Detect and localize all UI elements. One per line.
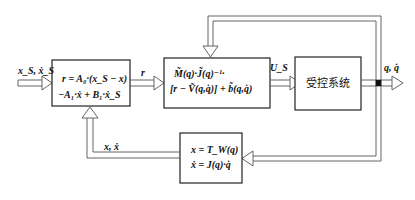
plant-label: 受控系统 bbox=[306, 76, 350, 90]
dynamics-line2: [r − Ṽ(q,q̇)] + b̃(q,q̇) bbox=[170, 82, 252, 95]
output-label: q, q̇ bbox=[384, 62, 399, 73]
input-label: x_S, ẋ_S bbox=[17, 65, 55, 76]
kinematics-line2: ẋ = J(q)·q̇ bbox=[190, 159, 231, 171]
input-arrow bbox=[18, 76, 52, 90]
controller-line2: −A₁·ẋ + B₁·ẋ_S bbox=[58, 89, 121, 100]
output-arrow bbox=[361, 76, 403, 90]
us-label: U_S bbox=[270, 62, 288, 73]
controller-line1: r = A₀·(x_S − x) bbox=[62, 73, 127, 85]
junction-node bbox=[376, 80, 382, 86]
feedback-label: x, ẋ bbox=[103, 141, 119, 152]
block-diagram: x_S, ẋ_S r = A₀·(x_S − x) −A₁·ẋ + B₁·ẋ_S… bbox=[0, 0, 415, 200]
r-arrow bbox=[130, 76, 164, 90]
kinematics-block bbox=[180, 133, 242, 183]
dynamics-line1: M̃(q)·J̃(q)⁻¹· bbox=[173, 67, 225, 80]
x-feedback-path bbox=[82, 107, 180, 158]
r-label: r bbox=[141, 67, 145, 78]
kinematics-line1: x = T_W(q) bbox=[190, 144, 238, 156]
